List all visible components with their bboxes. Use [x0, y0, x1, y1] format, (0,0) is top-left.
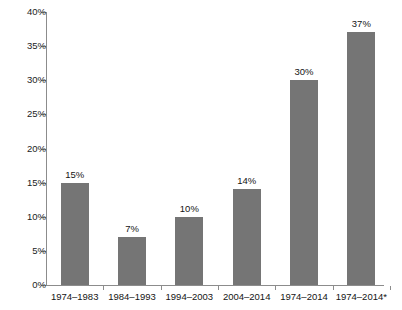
bar-value-label: 37% — [337, 18, 385, 29]
bar[interactable] — [61, 183, 89, 285]
bar-value-label: 7% — [108, 223, 156, 234]
bar[interactable] — [175, 217, 203, 285]
y-axis-tick-label-wrap: 35% — [0, 41, 46, 51]
y-axis-tick-label: 15% — [10, 178, 46, 188]
x-axis-category-label: 1974–2014* — [329, 291, 393, 303]
x-axis-tick — [333, 286, 334, 290]
x-axis-tick — [161, 286, 162, 290]
y-axis-tick-label: 40% — [10, 7, 46, 17]
x-axis-tick — [275, 286, 276, 290]
y-axis-tick-label-wrap: 10% — [0, 212, 46, 222]
bar[interactable] — [347, 32, 375, 285]
x-axis-tick — [218, 286, 219, 290]
x-axis-category-label: 1994–2003 — [157, 291, 221, 303]
x-axis-category-label: 1984–1993 — [100, 291, 164, 303]
y-axis-tick-label: 0% — [10, 280, 46, 290]
y-axis-tick-label: 10% — [10, 212, 46, 222]
x-axis-tick — [103, 286, 104, 290]
y-axis-tick-label: 5% — [10, 246, 46, 256]
y-axis-tick-label: 35% — [10, 41, 46, 51]
x-axis-category-label: 1974–2014 — [272, 291, 336, 303]
x-axis-tick — [390, 286, 391, 290]
x-axis-category-label: 1974–1983 — [43, 291, 107, 303]
y-axis-tick-label-wrap: 40% — [0, 7, 46, 17]
y-axis-tick-label-wrap: 5% — [0, 246, 46, 256]
bar[interactable] — [233, 189, 261, 285]
y-axis-tick-label-wrap: 20% — [0, 144, 46, 154]
bar[interactable] — [118, 237, 146, 285]
x-axis-category-label: 2004–2014 — [215, 291, 279, 303]
y-axis-tick-label: 20% — [10, 144, 46, 154]
y-axis-tick-label-wrap: 0% — [0, 280, 46, 290]
bar-chart: 0%5%10%15%20%25%30%35%40% 15%1974–19837%… — [0, 0, 402, 310]
bar-value-label: 15% — [51, 169, 99, 180]
y-axis-tick-label-wrap: 30% — [0, 75, 46, 85]
y-axis-tick-label: 30% — [10, 75, 46, 85]
bar-value-label: 30% — [280, 66, 328, 77]
y-axis-line — [46, 12, 47, 286]
bar-value-label: 14% — [223, 175, 271, 186]
bar-value-label: 10% — [165, 203, 213, 214]
y-axis-tick-label: 25% — [10, 109, 46, 119]
y-axis-tick-label-wrap: 15% — [0, 178, 46, 188]
y-axis-tick-label-wrap: 25% — [0, 109, 46, 119]
bar[interactable] — [290, 80, 318, 285]
